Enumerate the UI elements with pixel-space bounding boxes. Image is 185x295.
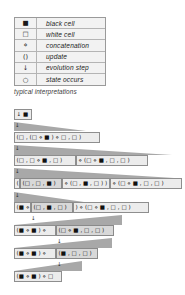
legend-row-label: state occurs xyxy=(37,76,105,83)
expression-node[interactable]: (□ , □ , ■ ) xyxy=(20,178,62,189)
legend-row: ⋄ concatenation xyxy=(15,40,105,51)
legend-table: ■ black cell □ white cell ⋄ concatenatio… xyxy=(14,17,106,86)
evolution-step-marker: ↓ xyxy=(15,192,20,198)
expression-node[interactable]: ⋄ (□ ⋄ ■ , □ , □ ) xyxy=(110,178,182,189)
evolution-step-icon: ↓ xyxy=(15,63,37,73)
expression-node[interactable]: (■ , □ , □ ) xyxy=(56,248,98,259)
concatenation-icon: ⋄ xyxy=(15,40,37,50)
connector-wedge xyxy=(14,122,86,131)
expression-node[interactable]: (■ ⋄ xyxy=(14,202,31,213)
legend-row: () update xyxy=(15,52,105,63)
legend-row: ■ black cell xyxy=(15,18,105,29)
legend-row: ○ state occurs xyxy=(15,74,105,85)
evolution-step-marker: ↓ xyxy=(15,145,20,151)
expression-node[interactable]: (■ ⋄ ■ ) ⋄ xyxy=(14,248,56,259)
legend-row-label: evolution step xyxy=(37,64,105,71)
expression-node[interactable]: (■ ⋄ ■ ) ⋄ xyxy=(14,225,56,236)
connector-wedge xyxy=(14,168,174,178)
expression-node[interactable]: (□ , □ ⋄ ■ , □ ) xyxy=(14,155,76,166)
legend-row: □ white cell xyxy=(15,29,105,40)
connector-wedge xyxy=(14,192,84,202)
state-occurs-icon: ○ xyxy=(15,74,37,85)
derivation-tree: ↓ ■ ↓ (□ , (□ ⋄ ■ ) ⋄ □ , □ ) ↓ (□ , □ ⋄… xyxy=(0,104,185,295)
expression-node[interactable]: (□ , ■ , □ ) xyxy=(31,202,73,213)
evolution-step-marker: ↓ xyxy=(15,168,20,174)
legend-row-label: black cell xyxy=(37,20,105,27)
update-icon: () xyxy=(15,52,37,62)
legend-row: ↓ evolution step xyxy=(15,63,105,74)
expression-node[interactable]: ⋄ (□ , ■ , □ ) ) xyxy=(62,178,110,189)
expression-node[interactable]: ↓ ■ xyxy=(14,109,32,120)
evolution-step-marker: ↓ xyxy=(15,122,20,128)
expression-node[interactable]: (□ ⋄ ■ , □ , □ ) xyxy=(56,225,114,236)
expression-node[interactable]: ⋄ (□ ⋄ ■ , □ , □ ) xyxy=(76,155,148,166)
legend-row-label: concatenation xyxy=(37,42,105,49)
legend-row-label: update xyxy=(37,53,105,60)
white-cell-icon: □ xyxy=(15,29,37,39)
expression-node[interactable]: (■ ⋄ ■ ) ⋄ □ xyxy=(14,271,62,282)
connector-wedge xyxy=(14,238,112,248)
connector-wedge xyxy=(14,145,172,155)
evolution-step-marker: ↓ xyxy=(57,261,62,267)
legend-caption: typical interpretations xyxy=(14,88,77,95)
evolution-step-marker: ↓ xyxy=(31,215,36,221)
legend-row-label: white cell xyxy=(37,31,105,38)
expression-node[interactable]: ) ⋄ (□ ⋄ ■ , □ , □ ) xyxy=(73,202,149,213)
expression-node[interactable]: (□ , (□ ⋄ ■ ) ⋄ □ , □ ) xyxy=(14,132,100,143)
black-cell-icon: ■ xyxy=(15,18,37,28)
evolution-step-marker: ↓ xyxy=(57,238,62,244)
connector-wedge xyxy=(14,261,82,271)
